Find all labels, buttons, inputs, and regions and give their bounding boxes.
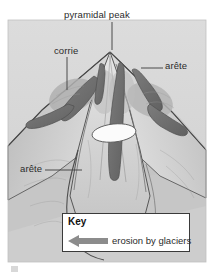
key-title: Key xyxy=(68,216,86,227)
corner-mark xyxy=(11,266,18,272)
label-arete-left: arête xyxy=(20,163,42,174)
key-arrow-label: erosion by glaciers xyxy=(112,235,191,246)
label-pyramidal-peak: pyramidal peak xyxy=(64,9,130,20)
glacial-landform-diagram: pyramidal peak corrie arête arête Key er… xyxy=(0,0,214,275)
key-legend-box: Key erosion by glaciers xyxy=(62,213,190,252)
label-arete-right: arête xyxy=(165,60,187,71)
key-legend-row: erosion by glaciers xyxy=(68,234,186,250)
label-corrie: corrie xyxy=(54,45,78,56)
left-arrow-icon xyxy=(68,234,108,248)
